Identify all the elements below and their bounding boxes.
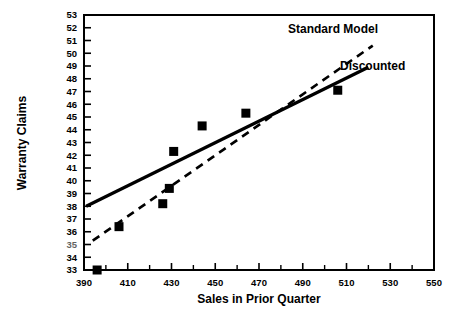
y-tick-label: 33: [66, 264, 77, 275]
y-tick-label: 38: [66, 201, 77, 212]
y-axis-ticks: [84, 15, 91, 270]
x-tick-label: 410: [120, 277, 136, 288]
y-tick-label: 37: [66, 213, 77, 224]
scatter-plot: 3334353637383940414243444546474849505152…: [0, 0, 450, 319]
y-tick-label: 44: [66, 124, 77, 135]
regression-line-discounted: [86, 67, 368, 206]
x-tick-label: 470: [251, 277, 267, 288]
x-tick-label: 490: [295, 277, 311, 288]
x-axis-title: Sales in Prior Quarter: [197, 292, 321, 306]
data-point-marker: [198, 121, 207, 130]
data-point-marker: [169, 147, 178, 156]
data-point-marker: [165, 184, 174, 193]
y-tick-label: 47: [66, 86, 77, 97]
y-tick-label: 45: [66, 111, 77, 122]
x-tick-label: 430: [164, 277, 180, 288]
x-tick-label: 530: [382, 277, 398, 288]
data-point-marker: [241, 109, 250, 118]
x-tick-label: 390: [76, 277, 92, 288]
y-tick-label: 36: [66, 226, 77, 237]
x-tick-label: 550: [426, 277, 442, 288]
y-axis-tick-labels: 3334353637383940414243444546474849505152…: [66, 9, 77, 275]
data-point-marker: [115, 222, 124, 231]
data-point-markers: [93, 86, 343, 275]
regression-lines: [86, 46, 373, 241]
y-tick-label: 40: [66, 175, 77, 186]
series-label-standard-model: Standard Model: [288, 22, 378, 36]
y-tick-label: 39: [66, 188, 77, 199]
x-axis-major-ticks: [84, 263, 434, 270]
data-point-marker: [158, 199, 167, 208]
y-tick-label: 49: [66, 60, 77, 71]
series-label-discounted: Discounted: [340, 59, 405, 73]
y-tick-label: 52: [66, 22, 77, 33]
y-tick-label: 53: [66, 9, 77, 20]
y-tick-label: 46: [66, 99, 77, 110]
regression-line-standard-model: [93, 46, 373, 241]
y-tick-label: 48: [66, 73, 77, 84]
x-axis-tick-labels: 390410430450470490510530550: [76, 277, 442, 288]
y-tick-label: 50: [66, 48, 77, 59]
y-tick-label: 34: [66, 252, 77, 263]
x-tick-label: 510: [339, 277, 355, 288]
chart-figure: 3334353637383940414243444546474849505152…: [0, 0, 450, 319]
y-tick-label: 42: [66, 150, 77, 161]
y-tick-label: 43: [66, 137, 77, 148]
y-axis-title: Warranty Claims: [15, 96, 29, 191]
plot-frame: [84, 15, 434, 270]
y-tick-label: 41: [66, 162, 77, 173]
data-point-marker: [333, 86, 342, 95]
y-tick-label: 51: [66, 35, 77, 46]
y-tick-label: 35: [66, 239, 77, 250]
data-point-marker: [93, 266, 102, 275]
x-tick-label: 450: [207, 277, 223, 288]
